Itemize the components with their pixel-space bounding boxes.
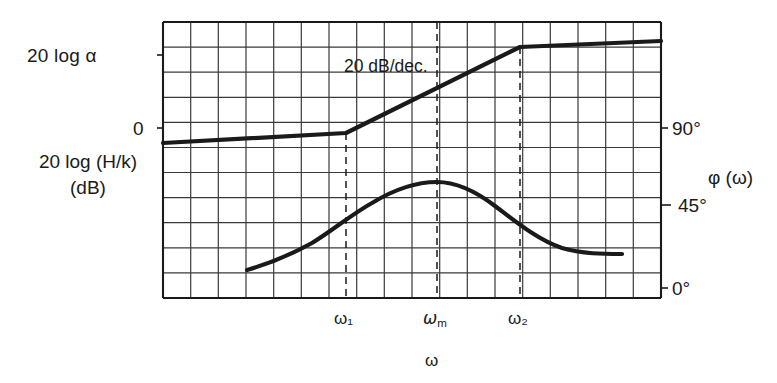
y-axis-title-line-2: (dB): [18, 178, 158, 197]
right-axis-title-phi-omega: φ (ω): [708, 168, 753, 187]
x-axis-title-omega: ω: [425, 352, 438, 369]
y-tick-label-zero: 0: [133, 119, 144, 138]
right-tick-label-45-deg: 45°: [678, 196, 707, 215]
y-tick-label-20-log-alpha: 20 log α: [27, 46, 97, 65]
x-tick-label-omega-m: ωm: [423, 310, 447, 329]
x-tick-label-omega-1: ω₁: [334, 310, 353, 327]
right-tick-label-0-deg: 0°: [672, 279, 690, 298]
x-tick-label-omega-2: ω₂: [508, 310, 528, 327]
phase-curve-stroke: [247, 182, 622, 270]
y-axis-title: 20 log (H/k) (dB): [18, 152, 158, 197]
right-axis-ticks: [661, 128, 671, 288]
right-tick-label-90-deg: 90°: [672, 119, 701, 138]
y-axis-title-line-1: 20 log (H/k): [39, 151, 137, 172]
slope-annotation-20db-per-decade: 20 dB/dec.: [344, 58, 428, 76]
bode-plot-figure: 20 log α 0 20 log (H/k) (dB) 20 dB/dec. …: [0, 0, 777, 383]
